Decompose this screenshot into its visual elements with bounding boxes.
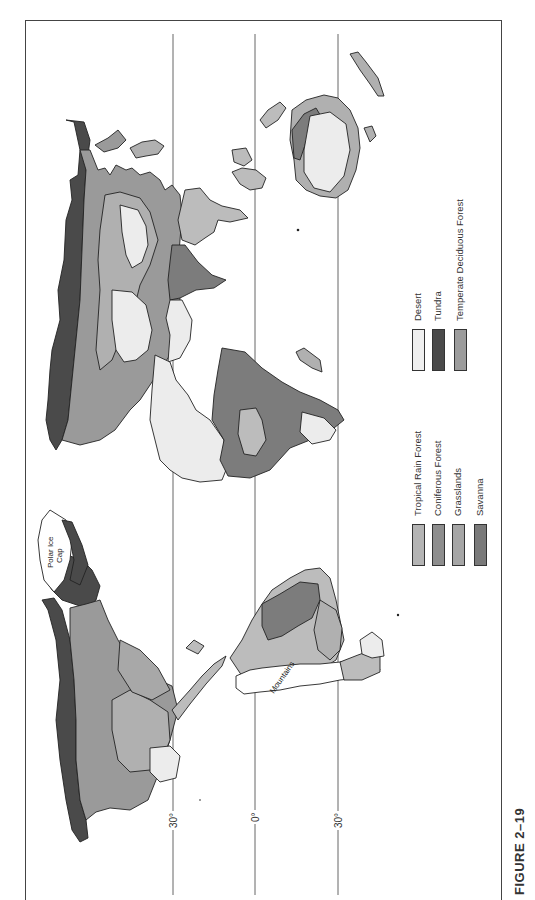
japan-island bbox=[130, 140, 164, 158]
latitude-label-equator: 0° bbox=[250, 810, 261, 824]
legend-swatch-grasslands bbox=[452, 524, 465, 566]
legend-label-grasslands: Grasslands bbox=[452, 468, 463, 516]
legend-swatch-tundra bbox=[432, 329, 445, 371]
legend-label-temperate-deciduous-forest: Temperate Deciduous Forest bbox=[454, 199, 465, 321]
figure-label: FIGURE 2–19 bbox=[512, 808, 527, 895]
legend-swatch-desert bbox=[412, 329, 425, 371]
indonesia-islands bbox=[232, 168, 266, 190]
legend-label-tundra: Tundra bbox=[432, 291, 443, 321]
philippines-islands bbox=[260, 102, 286, 128]
polar-ice-cap-label-line1: Polar Ice bbox=[46, 536, 55, 568]
kamchatka bbox=[95, 130, 126, 152]
madagascar bbox=[296, 348, 322, 372]
africa-savanna bbox=[212, 348, 344, 478]
borneo-island bbox=[232, 148, 252, 166]
patagonia-desert bbox=[360, 632, 384, 658]
tasmania bbox=[364, 126, 376, 142]
legend-swatch-temperate-deciduous-forest bbox=[454, 329, 467, 371]
india-savanna bbox=[168, 245, 226, 300]
se-asia-rainforest bbox=[178, 188, 248, 245]
caribbean-islands bbox=[186, 640, 204, 654]
new-zealand bbox=[350, 52, 384, 96]
small-islands bbox=[199, 229, 399, 801]
legend-label-desert: Desert bbox=[412, 293, 423, 321]
legend-swatch-tropical-rain-forest bbox=[412, 524, 425, 566]
polar-ice-cap-label-line2: Cap bbox=[55, 548, 64, 563]
latitude-label-30n: 30° bbox=[168, 811, 179, 830]
legend-swatch-coniferous-forest bbox=[432, 524, 445, 566]
arabia-desert bbox=[166, 300, 192, 362]
legend-label-tropical-rain-forest: Tropical Rain Forest bbox=[412, 431, 423, 516]
central-america bbox=[172, 656, 226, 720]
legend-label-coniferous-forest: Coniferous Forest bbox=[432, 440, 443, 516]
legend-label-savanna: Savanna bbox=[474, 478, 485, 516]
legend-swatch-savanna bbox=[474, 524, 487, 566]
latitude-label-30s: 30° bbox=[333, 811, 344, 830]
north-america-desert bbox=[150, 746, 180, 782]
